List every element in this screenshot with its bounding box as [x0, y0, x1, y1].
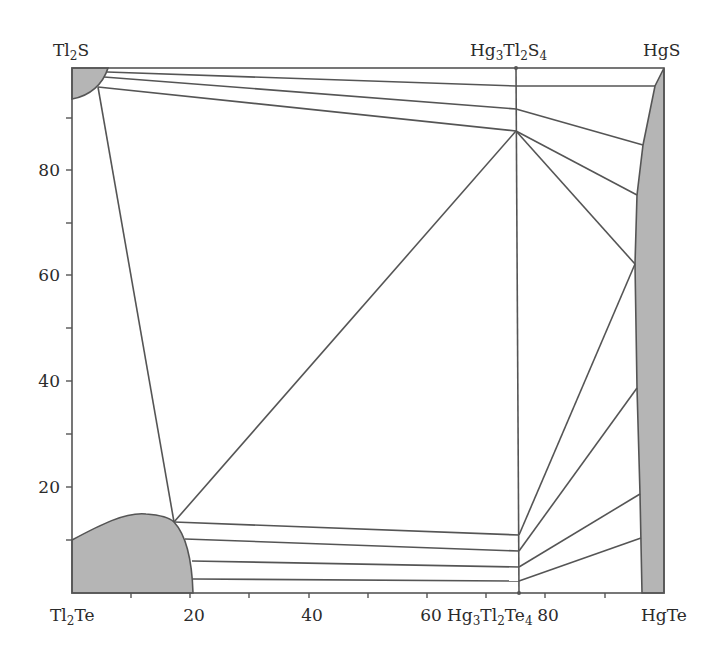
hg3tl2te4-point	[517, 591, 521, 595]
tie-lines-bottom	[174, 264, 641, 581]
tl2s-region	[72, 68, 108, 99]
plot-frame	[72, 68, 664, 593]
tie-lines-diagonal	[98, 87, 516, 522]
label-tl2te: Tl2Te	[50, 605, 95, 628]
label-hg3tl2te4: Hg3Tl2Te4	[447, 605, 533, 628]
x-tick-60: 60	[420, 605, 442, 625]
x-tick-80: 80	[537, 605, 559, 625]
label-tl2s: Tl2S	[53, 40, 89, 63]
y-axis-ticks	[66, 118, 72, 540]
label-hgte: HgTe	[641, 605, 687, 625]
y-tick-80: 80	[38, 160, 60, 180]
y-tick-40: 40	[38, 371, 60, 391]
hgs-hgte-region	[635, 68, 664, 593]
tl2te-region	[72, 514, 193, 593]
hg3tl2s4-hg3tl2te4-line	[516, 68, 519, 593]
label-hg3tl2s4: Hg3Tl2S4	[470, 40, 547, 63]
phase-diagram: 80 60 40 20 20 40 60 80 Tl2S Hg3Tl2S4 Hg…	[0, 0, 727, 656]
x-tick-20: 20	[183, 605, 205, 625]
y-tick-60: 60	[38, 265, 60, 285]
hg3tl2s4-point	[514, 66, 518, 70]
label-hgs: HgS	[643, 40, 680, 60]
y-tick-20: 20	[38, 477, 60, 497]
x-tick-40: 40	[301, 605, 323, 625]
tie-lines-top	[98, 72, 655, 264]
